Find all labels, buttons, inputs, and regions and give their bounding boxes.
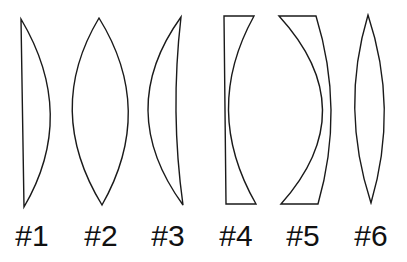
lens-1-label: #1 [15, 219, 48, 252]
lens-4-label: #4 [219, 219, 252, 252]
lens-3-label: #3 [151, 219, 184, 252]
lens-3-positive-meniscus [148, 17, 183, 205]
lens-5-label: #5 [286, 219, 319, 252]
lens-2-biconvex [72, 18, 128, 205]
lens-5-negative-meniscus [279, 16, 331, 204]
lens-2-label: #2 [84, 219, 117, 252]
lens-diagram: #1 #2 #3 #4 #5 #6 [0, 0, 407, 262]
lens-6-biconvex-thin [355, 15, 385, 203]
lens-4-plano-concave [224, 16, 256, 204]
lens-1-plano-convex [21, 19, 50, 207]
lens-6-label: #6 [354, 219, 387, 252]
